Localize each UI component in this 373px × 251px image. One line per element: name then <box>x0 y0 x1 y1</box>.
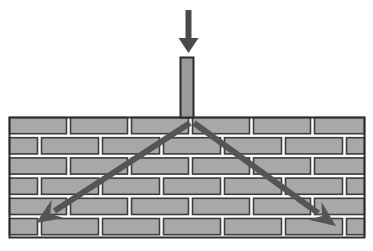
brick <box>286 138 343 154</box>
loaded-column <box>181 58 194 118</box>
brick <box>71 198 128 214</box>
brick <box>164 219 221 235</box>
brick <box>103 219 160 235</box>
brick <box>254 118 311 134</box>
brick <box>10 158 67 174</box>
figure-root <box>0 0 373 251</box>
brick <box>164 138 221 154</box>
brick-course-3 <box>10 178 365 194</box>
brick <box>315 158 365 174</box>
wall-load-diagram-svg <box>0 0 373 251</box>
brick <box>10 118 67 134</box>
load-arrow-shaft <box>186 10 192 38</box>
brick <box>286 219 343 235</box>
brick <box>10 138 38 154</box>
brick <box>10 178 38 194</box>
brick <box>132 198 189 214</box>
brick <box>132 158 189 174</box>
brick <box>225 219 282 235</box>
brick <box>103 178 160 194</box>
brick <box>347 178 365 194</box>
brick <box>315 118 365 134</box>
brick <box>347 138 365 154</box>
brick-course-1 <box>10 138 365 154</box>
brick <box>42 219 99 235</box>
brick <box>193 198 250 214</box>
brick-course-2 <box>10 158 365 174</box>
brick <box>71 118 128 134</box>
brick-course-5 <box>10 219 365 235</box>
brick <box>164 178 221 194</box>
brick <box>10 219 38 235</box>
brick <box>42 138 99 154</box>
brick <box>347 219 365 235</box>
